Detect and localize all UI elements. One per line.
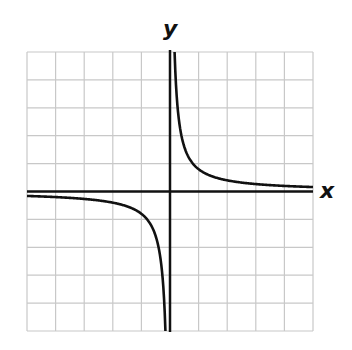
hyperbola-chart — [0, 0, 352, 350]
x-axis-label: x — [320, 180, 334, 202]
y-axis-label: y — [163, 18, 177, 40]
curve-branch-negative — [27, 196, 165, 331]
curve-branch-positive — [175, 52, 313, 187]
axes — [27, 50, 313, 332]
